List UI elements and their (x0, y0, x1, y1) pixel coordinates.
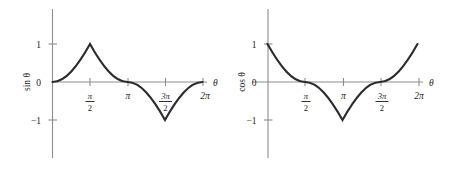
sine-xtick-label-3pi-over-2-denominator: 2 (163, 103, 167, 113)
cosine-ytick-label-0: 0 (252, 78, 257, 88)
sine-ytick-label-1: 1 (36, 40, 41, 50)
cosine-y-axis-label: cos θ (237, 72, 247, 92)
trig-graphs-figure: 1 0 −1 π 2 π 3π 2 2π θ sin θ (0, 0, 450, 170)
cosine-ytick-label-neg1: −1 (246, 116, 256, 126)
cosine-xtick-label-pi-over-2-numerator: π (304, 91, 309, 101)
sine-xtick-label-pi-over-2-denominator: 2 (88, 103, 92, 113)
cosine-plot-svg: 1 0 −1 π 2 π 3π 2 2π θ cos θ (225, 0, 450, 170)
sine-xtick-label-3pi-over-2-numerator: 3π (160, 91, 170, 101)
cosine-ytick-label-1: 1 (252, 40, 257, 50)
sine-ytick-label-0: 0 (36, 78, 41, 88)
sine-plot-panel: 1 0 −1 π 2 π 3π 2 2π θ sin θ (0, 0, 225, 170)
sine-xtick-label-3pi-over-2: 3π 2 (159, 91, 172, 113)
sine-xtick-label-pi-over-2-numerator: π (88, 91, 93, 101)
sine-ytick-label-neg1: −1 (31, 116, 41, 126)
cosine-xtick-label-pi: π (341, 91, 346, 101)
cosine-xtick-label-pi-over-2-denominator: 2 (304, 103, 308, 113)
cosine-xtick-label-2pi: 2π (414, 91, 424, 101)
cosine-x-axis-label: θ (429, 78, 434, 88)
cosine-xtick-label-3pi-over-2-numerator: 3π (377, 91, 387, 101)
cosine-plot-panel: 1 0 −1 π 2 π 3π 2 2π θ cos θ (225, 0, 450, 170)
sine-xtick-label-pi-over-2: π 2 (86, 91, 95, 113)
sine-plot-svg: 1 0 −1 π 2 π 3π 2 2π θ sin θ (0, 0, 225, 170)
sine-x-axis-label: θ (213, 78, 218, 88)
sine-y-axis-label: sin θ (22, 73, 32, 91)
sine-xtick-label-pi: π (126, 91, 131, 101)
sine-xtick-label-2pi: 2π (200, 91, 210, 101)
cosine-xtick-label-3pi-over-2-denominator: 2 (380, 103, 384, 113)
cosine-xtick-label-3pi-over-2: 3π 2 (376, 91, 389, 113)
cosine-xtick-label-pi-over-2: π 2 (302, 91, 311, 113)
